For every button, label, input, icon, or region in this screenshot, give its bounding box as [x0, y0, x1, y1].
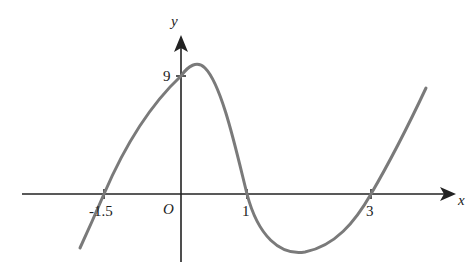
y-axis-label: y — [169, 13, 178, 29]
x-axis-label: x — [457, 192, 465, 208]
x-tick-label-3: 3 — [366, 203, 374, 219]
function-graph: x y O -1.5 1 3 9 — [0, 0, 476, 262]
origin-label: O — [163, 201, 174, 217]
y-tick-label-9: 9 — [163, 68, 171, 84]
x-tick-label-1: 1 — [242, 203, 250, 219]
function-curve — [80, 64, 426, 252]
x-tick-label-neg1.5: -1.5 — [89, 203, 113, 219]
